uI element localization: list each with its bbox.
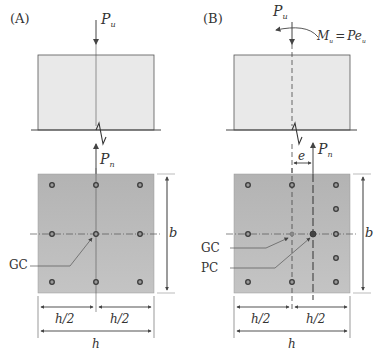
dim-h-label-a: h: [92, 338, 100, 350]
pn-label-b: Pn: [318, 142, 333, 159]
dim-h2-left-label-b: h/2: [251, 313, 270, 325]
pn-symbol-a: P: [100, 151, 109, 167]
mu-symbol: M: [317, 29, 329, 43]
pu-subscript-b: u: [282, 12, 287, 21]
dim-h2-right-label-b: h/2: [306, 313, 325, 325]
pu-label-b: Pu: [273, 4, 288, 21]
dim-h2-right-label-a: h/2: [110, 313, 129, 325]
panel-label-b: (B): [203, 12, 223, 25]
moment-label-b: Mu=Peu: [317, 30, 366, 44]
pn-label-a: Pn: [100, 152, 115, 169]
pu-symbol-b: P: [273, 3, 282, 19]
pu-label-a: Pu: [101, 12, 116, 29]
mu-rhs: Pe: [347, 29, 362, 43]
plastic-centroid-b: [310, 231, 316, 237]
eccentricity-label-b: e: [298, 150, 305, 162]
geometric-centroid-b: [290, 232, 294, 236]
pu-subscript-a: u: [110, 20, 115, 29]
mu-equals: =: [333, 29, 347, 43]
gc-label-b: GC: [201, 242, 220, 254]
moment-arrow-b: [276, 28, 318, 37]
dim-h-label-b: h: [288, 338, 296, 350]
pn-subscript-b: n: [327, 150, 332, 159]
pc-label-b: PC: [201, 262, 218, 274]
gc-label-a: GC: [9, 259, 28, 271]
panel-a: [30, 20, 175, 338]
panel-label-a: (A): [10, 12, 30, 25]
pn-symbol-b: P: [318, 141, 327, 157]
dim-b-label-a: b: [169, 226, 177, 239]
pn-subscript-a: n: [109, 160, 114, 169]
mu-rhs-subscript: u: [362, 37, 366, 44]
pu-symbol-a: P: [101, 11, 110, 27]
dim-h2-left-label-a: h/2: [55, 313, 74, 325]
dim-b-label-b: b: [365, 226, 373, 239]
figure-canvas: [0, 0, 384, 358]
panel-b: [226, 22, 371, 338]
figure-caption-clipped: [0, 353, 384, 358]
